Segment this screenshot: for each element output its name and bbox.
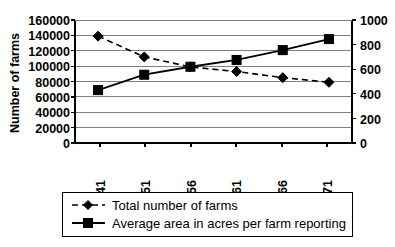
left-tick-label: 120000 bbox=[28, 45, 70, 59]
data-point-square bbox=[186, 62, 195, 71]
right-axis-tick-labels: 1000 800 600 400 200 0 bbox=[360, 14, 388, 151]
farms-chart: Number of farms 160000 140000 120000 100… bbox=[0, 0, 395, 247]
data-point-diamond bbox=[139, 52, 149, 62]
chart-canvas: Number of farms 160000 140000 120000 100… bbox=[0, 0, 395, 247]
left-tick-label: 60000 bbox=[35, 91, 70, 105]
right-tick-label: 0 bbox=[360, 137, 367, 151]
left-tick-label: 80000 bbox=[35, 76, 70, 90]
legend-label: Average area in acres per farm reporting bbox=[112, 216, 346, 231]
series-line bbox=[98, 36, 329, 82]
left-axis-tick-labels: 160000 140000 120000 100000 80000 60000 … bbox=[28, 14, 70, 151]
data-point-square bbox=[94, 86, 103, 95]
data-point-square bbox=[324, 35, 333, 44]
right-tick-label: 600 bbox=[360, 63, 381, 77]
data-point-square bbox=[140, 70, 149, 79]
x-tick-marks bbox=[100, 143, 327, 147]
right-tick-label: 1000 bbox=[360, 14, 388, 28]
data-point-diamond bbox=[324, 77, 334, 87]
data-point-diamond bbox=[93, 31, 103, 41]
left-tick-label: 40000 bbox=[35, 106, 70, 120]
right-tick-label: 200 bbox=[360, 113, 381, 127]
y-axis-title: Number of farms bbox=[8, 33, 22, 133]
square-marker-icon bbox=[84, 219, 93, 228]
series-line bbox=[98, 39, 329, 90]
right-tick-label: 800 bbox=[360, 39, 381, 53]
legend-entry-average-area[interactable]: Average area in acres per farm reporting bbox=[72, 216, 346, 231]
left-tick-label: 100000 bbox=[28, 60, 70, 74]
left-tick-label: 140000 bbox=[28, 29, 70, 43]
data-point-square bbox=[232, 55, 241, 64]
right-tick-label: 400 bbox=[360, 88, 381, 102]
legend-label: Total number of farms bbox=[112, 198, 238, 213]
chart-legend: Total number of farms Average area in ac… bbox=[62, 192, 352, 236]
left-tick-label: 0 bbox=[63, 137, 70, 151]
data-series-layer bbox=[93, 31, 334, 94]
gridlines bbox=[75, 35, 352, 127]
data-point-diamond bbox=[232, 67, 242, 77]
data-point-square bbox=[278, 46, 287, 55]
left-tick-label: 20000 bbox=[35, 122, 70, 136]
left-tick-label: 160000 bbox=[28, 14, 70, 28]
